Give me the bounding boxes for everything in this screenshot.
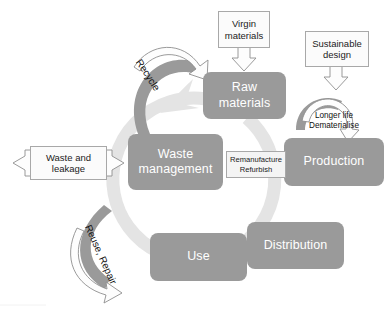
input-box-remanufacture-refurbish-label: Remanufacture Refurbish	[230, 155, 282, 173]
node-use-label: Use	[187, 249, 210, 264]
input-box-waste-and-leakage[interactable]: Waste and leakage	[30, 146, 107, 180]
input-box-sustainable-design-label: Sustainable design	[312, 38, 362, 61]
node-production[interactable]: Production	[284, 138, 384, 186]
flow-label-longer-life-dematerialise-text: Longer life Dematerialise	[309, 111, 359, 130]
node-raw-materials-label: Raw materials	[219, 80, 271, 111]
node-distribution-label: Distribution	[264, 238, 328, 253]
node-raw-materials[interactable]: Raw materials	[203, 72, 286, 119]
node-distribution[interactable]: Distribution	[247, 222, 344, 269]
sustainable-design-arrow	[324, 66, 348, 90]
node-waste-management-label: Waste management	[139, 147, 213, 178]
virgin-materials-arrow	[232, 47, 256, 71]
input-box-waste-and-leakage-label: Waste and leakage	[46, 152, 91, 175]
waste-leakage-left-arrowhead	[13, 150, 31, 176]
input-box-remanufacture-refurbish[interactable]: Remanufacture Refurbish	[226, 151, 286, 178]
node-use[interactable]: Use	[150, 233, 247, 281]
node-waste-management[interactable]: Waste management	[128, 134, 223, 190]
input-box-virgin-materials[interactable]: Virgin materials	[218, 11, 270, 48]
node-production-label: Production	[304, 154, 365, 169]
diagram-canvas: Raw materials Production Distribution Us…	[0, 0, 391, 311]
input-box-virgin-materials-label: Virgin materials	[225, 18, 264, 41]
input-box-sustainable-design[interactable]: Sustainable design	[305, 31, 369, 67]
flow-label-longer-life-dematerialise: Longer life Dematerialise	[297, 101, 371, 131]
